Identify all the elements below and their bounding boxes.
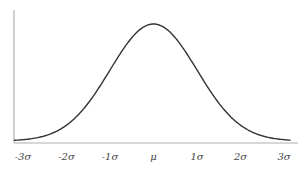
x-tick-label: 1σ xyxy=(190,151,204,162)
x-tick-label: 3σ xyxy=(277,151,291,162)
bell-curve-line xyxy=(14,24,291,140)
normal-distribution-chart: -3σ-2σ-1σμ1σ2σ3σ xyxy=(0,0,306,173)
x-tick-label: μ xyxy=(150,151,157,162)
x-tick-label: 2σ xyxy=(233,151,248,162)
x-tick-label: -1σ xyxy=(102,151,120,162)
x-tick-label: -3σ xyxy=(15,151,33,162)
x-tick-label: -2σ xyxy=(58,151,76,162)
